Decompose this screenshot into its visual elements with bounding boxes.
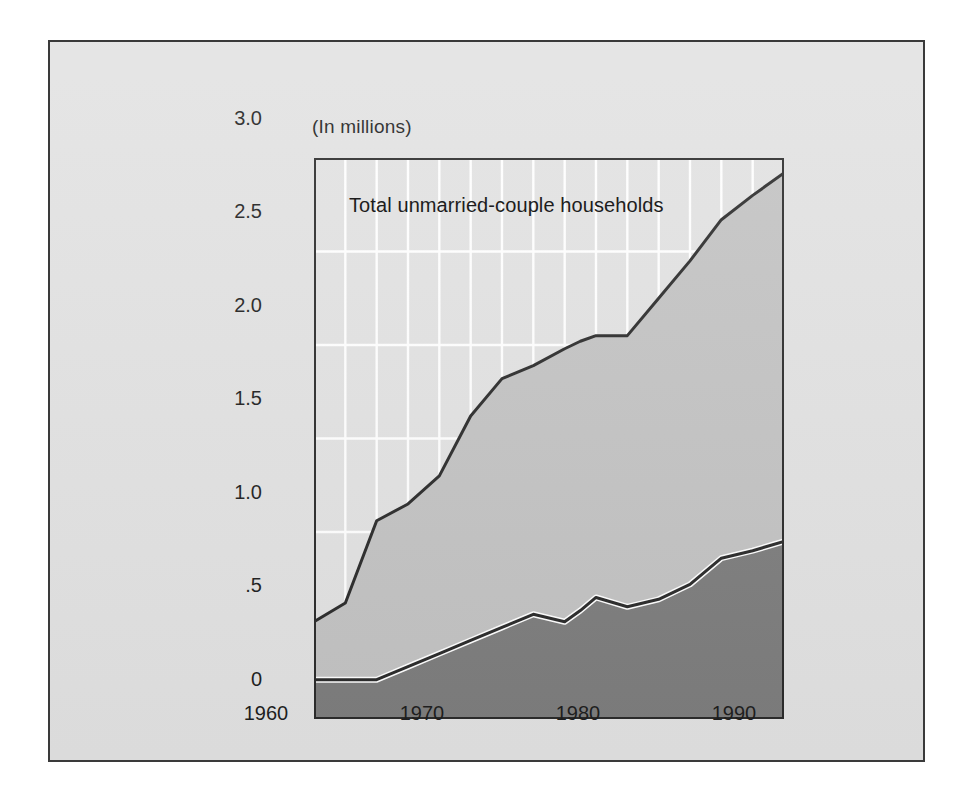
y-tick-25: 2.5 [192,200,262,223]
plot-area [314,158,784,719]
x-tick-1990: 1990 [679,702,789,725]
y-tick-2: 2.0 [192,294,262,317]
figure-root: (In millions) Total unmarried-couple hou… [0,0,971,806]
area-chart [314,158,784,719]
y-tick-15: 1.5 [192,387,262,410]
y-tick-3: 3.0 [192,107,262,130]
x-tick-1980: 1980 [523,702,633,725]
x-tick-1960: 1960 [211,702,321,725]
x-tick-1970: 1970 [367,702,477,725]
figure-plate: (In millions) Total unmarried-couple hou… [48,40,925,762]
unit-label: (In millions) [312,116,412,138]
y-tick-1: 1.0 [192,481,262,504]
series-label: Total unmarried-couple households [349,194,664,217]
y-tick-0: 0 [192,668,262,691]
y-tick-05: .5 [192,574,262,597]
